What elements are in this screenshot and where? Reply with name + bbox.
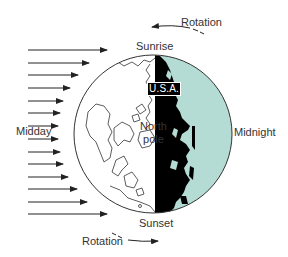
usa-label: U.S.A. [148,83,180,95]
sunrise-label: Sunrise [136,41,173,52]
earth-rotation-diagram: Rotation Sunrise Midday Midnight Sunset … [0,0,288,257]
north-pole-label: North pole [140,120,167,145]
sunset-label: Sunset [139,218,173,229]
midnight-label: Midnight [234,127,276,138]
rotation-label-top: Rotation [181,17,222,28]
rotation-label-bottom: Rotation [82,236,123,247]
midday-label: Midday [16,126,51,137]
north-pole-line1: North [140,120,167,133]
north-pole-line2: pole [140,133,167,146]
